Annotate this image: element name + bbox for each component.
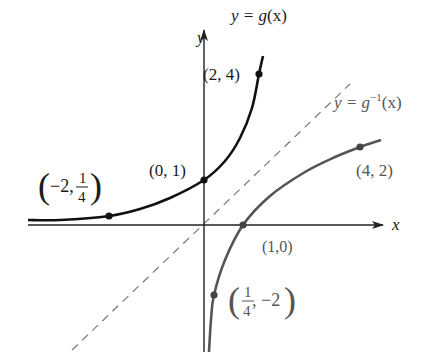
point-label-0-1: (0, 1) — [149, 161, 186, 180]
point-marker — [239, 221, 246, 228]
y-axis-label: y — [195, 28, 205, 47]
point-marker — [105, 212, 112, 219]
point-label-quarter-neg2: ( 1 4 , −2 ) — [228, 280, 296, 320]
point-label-1-0: (1,0) — [262, 238, 293, 256]
svg-text:(: ( — [228, 280, 240, 320]
svg-text:): ) — [90, 166, 102, 206]
point-marker — [210, 291, 217, 298]
function-inverse-diagram: x y y = g(x) y = g−1(x) (2, 4) (0, 1) (4… — [0, 0, 444, 364]
svg-text:−2,: −2, — [50, 176, 74, 196]
point-label-neg2-quarter: ( −2, 1 4 ) — [38, 166, 102, 206]
g-inverse-curve-label: y = g−1(x) — [332, 91, 402, 112]
point-markers — [105, 70, 363, 298]
point-label-2-4: (2, 4) — [203, 65, 240, 84]
svg-text:, −2: , −2 — [252, 290, 280, 310]
point-label-4-2: (4, 2) — [356, 161, 393, 180]
x-axis-label: x — [391, 215, 400, 234]
g-curve-label: y = g(x) — [229, 6, 287, 25]
svg-text:4: 4 — [78, 189, 86, 205]
svg-text:1: 1 — [79, 170, 87, 186]
svg-text:(: ( — [38, 166, 50, 206]
point-marker — [200, 176, 207, 183]
svg-text:4: 4 — [243, 303, 251, 319]
point-marker — [255, 70, 262, 77]
point-marker — [356, 143, 363, 150]
svg-text:): ) — [284, 280, 296, 320]
svg-text:1: 1 — [244, 284, 252, 300]
